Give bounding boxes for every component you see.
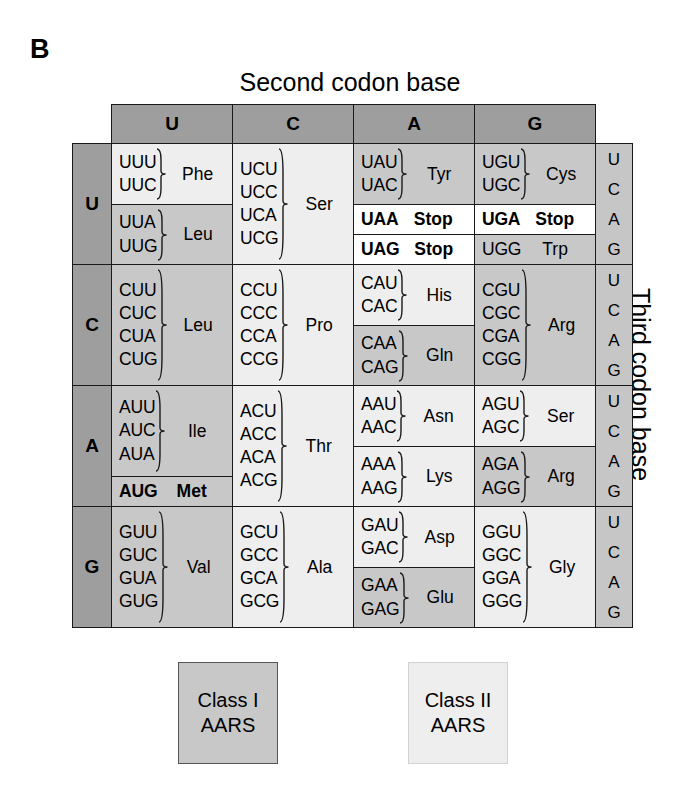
codon-list: CAUCAC bbox=[354, 272, 397, 318]
codon-group-glu: GAAGAGGlu bbox=[354, 567, 474, 627]
codon-list: AUG bbox=[112, 480, 157, 503]
amino-acid-label: Gly bbox=[533, 557, 595, 578]
codon-list: CUUCUCCUACUG bbox=[112, 279, 157, 371]
third-base-letter: C bbox=[608, 544, 620, 561]
codon-list: UUUUUC bbox=[112, 151, 156, 197]
codon-block-uc: UCUUCCUCAUCGSer bbox=[233, 144, 354, 265]
third-base-letter: G bbox=[607, 483, 620, 500]
codon-block-inner: AUUAUCAUAIleAUGMet bbox=[112, 386, 232, 506]
brace-icon bbox=[157, 269, 168, 381]
codon-list: GGUGGCGGAGGG bbox=[475, 521, 522, 613]
codon-block-inner: UUUUUCPheUUAUUGLeu bbox=[112, 144, 232, 264]
brace-icon bbox=[279, 511, 290, 623]
table-corner-blank-right bbox=[596, 105, 633, 144]
codon: GUC bbox=[119, 544, 158, 567]
codon: CGU bbox=[482, 279, 521, 302]
codon: UUG bbox=[119, 235, 157, 258]
amino-acid-label: Leu bbox=[168, 224, 232, 245]
codon: AGU bbox=[482, 393, 519, 416]
codon-block-ua: UAUUACTyrUAAStopUAGStop bbox=[354, 144, 475, 265]
codon-block-inner: CUUCUCCUACUGLeu bbox=[112, 265, 232, 385]
amino-acid-label: Trp bbox=[521, 239, 595, 260]
codon-group-met: AUGMet bbox=[112, 476, 232, 506]
codon-group-ser: AGUAGCSer bbox=[475, 386, 595, 446]
codon-list: CGUCGCCGACGG bbox=[475, 279, 521, 371]
codon: GGU bbox=[482, 521, 522, 544]
column-header-g: G bbox=[475, 105, 596, 144]
codon: GGC bbox=[482, 544, 522, 567]
codon-block-cu: CUUCUCCUACUGLeu bbox=[112, 265, 233, 386]
codon: UAC bbox=[361, 174, 397, 197]
codon: UUA bbox=[119, 211, 157, 234]
amino-acid-label: Arg bbox=[532, 315, 595, 336]
amino-acid-label: Pro bbox=[289, 315, 353, 336]
codon: CUA bbox=[119, 325, 157, 348]
codon-block-inner: GCUGCCGCAGCGAla bbox=[233, 507, 353, 627]
codon-group-leu: UUAUUGLeu bbox=[112, 204, 232, 264]
column-header-row: UCAG bbox=[73, 105, 633, 144]
row-header-c: C bbox=[73, 265, 112, 386]
third-base-letter: U bbox=[608, 151, 620, 168]
third-base-letter: U bbox=[608, 514, 620, 531]
codon-group-asp: GAUGACAsp bbox=[354, 507, 474, 567]
codon: CGA bbox=[482, 325, 521, 348]
codon-row-u: UUUUUUCPheUUAUUGLeuUCUUCCUCAUCGSerUAUUAC… bbox=[73, 144, 633, 265]
amino-acid-label: Ala bbox=[290, 557, 353, 578]
codon-group-arg: AGAAGGArg bbox=[475, 446, 595, 506]
brace-icon bbox=[521, 269, 532, 381]
codon: AGA bbox=[482, 453, 520, 476]
third-base-stack: UCAG bbox=[596, 386, 632, 506]
codon-block-inner: GUUGUCGUAGUGVal bbox=[112, 507, 232, 627]
codon: CCU bbox=[240, 279, 278, 302]
codon: AGG bbox=[482, 477, 520, 500]
third-base-letter: U bbox=[608, 393, 620, 410]
row-header-u: U bbox=[73, 144, 112, 265]
codon: GGA bbox=[482, 567, 522, 590]
codon-block-gg: GGUGGCGGAGGGGly bbox=[475, 507, 596, 628]
third-base-letter: U bbox=[608, 272, 620, 289]
third-base-letter: C bbox=[608, 181, 620, 198]
codon-list: UCUUCCUCAUCG bbox=[233, 158, 278, 250]
row-header-g: G bbox=[73, 507, 112, 628]
amino-acid-label: Gln bbox=[409, 345, 474, 366]
codon: GCG bbox=[240, 590, 279, 613]
third-base-letter: A bbox=[608, 453, 619, 470]
amino-acid-label: Ser bbox=[289, 194, 353, 215]
codon: AAU bbox=[361, 393, 396, 416]
brace-icon bbox=[397, 148, 408, 200]
codon: UGC bbox=[482, 174, 520, 197]
amino-acid-label: Thr bbox=[288, 436, 353, 457]
codon: AUA bbox=[119, 443, 155, 466]
codon: AAC bbox=[361, 416, 396, 439]
codon-list: AAUAAC bbox=[354, 393, 396, 439]
third-base-column-a: UCAG bbox=[596, 386, 633, 507]
third-base-column-g: UCAG bbox=[596, 507, 633, 628]
codon: UGU bbox=[482, 151, 520, 174]
third-base-letter: C bbox=[608, 302, 620, 319]
codon-block-au: AUUAUCAUAIleAUGMet bbox=[112, 386, 233, 507]
legend-class-i-aars: Class I AARS bbox=[178, 662, 278, 764]
codon: UAU bbox=[361, 151, 397, 174]
codon: CUC bbox=[119, 302, 157, 325]
codon: CCG bbox=[240, 348, 278, 371]
codon-block-gc: GCUGCCGCAGCGAla bbox=[233, 507, 354, 628]
codon-list: UGA bbox=[475, 208, 520, 231]
codon-block-inner: CCUCCCCCACCGPro bbox=[233, 265, 353, 385]
codon: CUU bbox=[119, 279, 157, 302]
codon-group-arg: CGUCGCCGACGGArg bbox=[475, 265, 595, 385]
codon-block-aa: AAUAACAsnAAAAAGLys bbox=[354, 386, 475, 507]
codon-block-inner: UAUUACTyrUAAStopUAGStop bbox=[354, 144, 474, 264]
amino-acid-label: Ser bbox=[530, 406, 595, 427]
codon-group-his: CAUCACHis bbox=[354, 265, 474, 325]
codon-list: UAG bbox=[354, 238, 399, 261]
codon: ACU bbox=[240, 400, 277, 423]
codon: UAA bbox=[361, 208, 398, 231]
codon-group-stop: UAAStop bbox=[354, 204, 474, 234]
codon-block-cg: CGUCGCCGACGGArg bbox=[475, 265, 596, 386]
codon-row-g: GGUUGUCGUAGUGValGCUGCCGCAGCGAlaGAUGACAsp… bbox=[73, 507, 633, 628]
column-header-u: U bbox=[112, 105, 233, 144]
codon-block-gu: GUUGUCGUAGUGVal bbox=[112, 507, 233, 628]
brace-icon bbox=[278, 148, 289, 260]
brace-icon bbox=[522, 511, 533, 623]
codon-table: UCAGUUUUUUCPheUUAUUGLeuUCUUCCUCAUCGSerUA… bbox=[72, 104, 633, 628]
